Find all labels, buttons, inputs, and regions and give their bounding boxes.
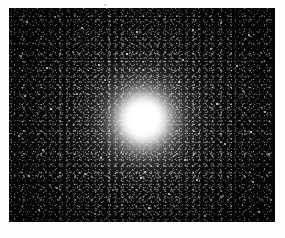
page-root: Black-and-white astronomical photograph … [0, 0, 285, 238]
film-grain-texture [9, 8, 275, 222]
globular-cluster-photograph: Black-and-white astronomical photograph … [9, 8, 275, 222]
paper-speck [104, 4, 107, 6]
